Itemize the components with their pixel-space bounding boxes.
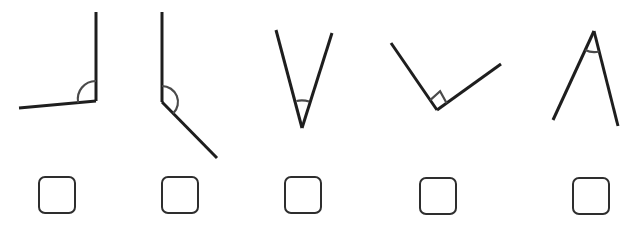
angle-1-arc-marker <box>78 81 96 103</box>
angle-2-ray-down-right <box>162 102 217 158</box>
angle-5 <box>553 31 618 126</box>
angle-1-ray-left <box>19 101 96 108</box>
angle-1 <box>19 12 96 108</box>
angle-4-checkbox[interactable] <box>419 177 457 215</box>
angle-3-arc-marker <box>296 100 309 101</box>
angle-2 <box>162 12 217 158</box>
angle-3-ray-right <box>302 33 332 128</box>
angle-3-ray-left <box>276 30 302 128</box>
angle-5-ray-left <box>553 31 594 120</box>
angle-4 <box>391 43 501 110</box>
angle-5-checkbox[interactable] <box>572 177 610 215</box>
angle-1-checkbox[interactable] <box>38 176 76 214</box>
angle-3 <box>276 30 332 128</box>
angle-5-arc-marker <box>585 50 599 52</box>
angle-2-checkbox[interactable] <box>161 176 199 214</box>
angle-5-ray-right <box>594 31 618 126</box>
angle-3-checkbox[interactable] <box>284 176 322 214</box>
